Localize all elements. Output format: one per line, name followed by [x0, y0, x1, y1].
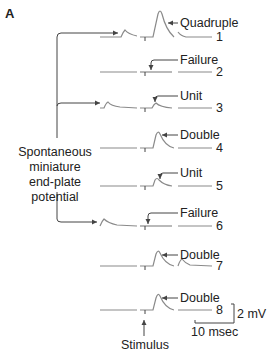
trace-3-number: 3	[216, 101, 223, 115]
trace-5-annotation: Unit	[180, 166, 202, 180]
trace-6	[100, 219, 212, 230]
trace-3-annotation: Unit	[180, 89, 202, 103]
scale-voltage-label: 2 mV	[237, 307, 266, 321]
trace-2-pointer	[151, 60, 178, 70]
trace-5-number: 5	[216, 179, 223, 193]
trace-3-pointer	[155, 96, 178, 102]
trace-4-number: 4	[216, 141, 223, 155]
spontaneous-mepp-label: Spontaneous miniature end-plate potentia…	[7, 145, 103, 205]
side-label-line2: miniature	[7, 160, 103, 175]
trace-2-number: 2	[216, 65, 223, 79]
panel-label: A	[5, 7, 14, 21]
trace-8-annotation: Double	[180, 291, 220, 305]
trace-3	[100, 102, 212, 112]
scale-bar	[195, 304, 234, 323]
trace-6-annotation: Failure	[180, 206, 218, 220]
side-label-line1: Spontaneous	[7, 145, 103, 160]
trace-1-number: 1	[216, 30, 223, 44]
scale-time-label: 10 msec	[191, 325, 238, 339]
trace-2-annotation: Failure	[180, 53, 218, 67]
trace-6-pointer	[148, 213, 178, 224]
trace-2	[100, 72, 212, 76]
trace-8-number: 8	[216, 303, 223, 317]
trace-5-pointer	[160, 173, 178, 179]
trace-4-annotation: Double	[180, 128, 220, 142]
trace-7-number: 7	[216, 259, 223, 273]
side-label-line3: end-plate	[7, 175, 103, 190]
trace-6-number: 6	[216, 219, 223, 233]
trace-7-annotation: Double	[180, 248, 220, 262]
trace-5	[100, 179, 212, 191]
stimulus-label: Stimulus	[121, 338, 169, 352]
side-label-line4: potential	[7, 190, 103, 205]
trace-1-annotation: Quadruple	[180, 16, 238, 30]
